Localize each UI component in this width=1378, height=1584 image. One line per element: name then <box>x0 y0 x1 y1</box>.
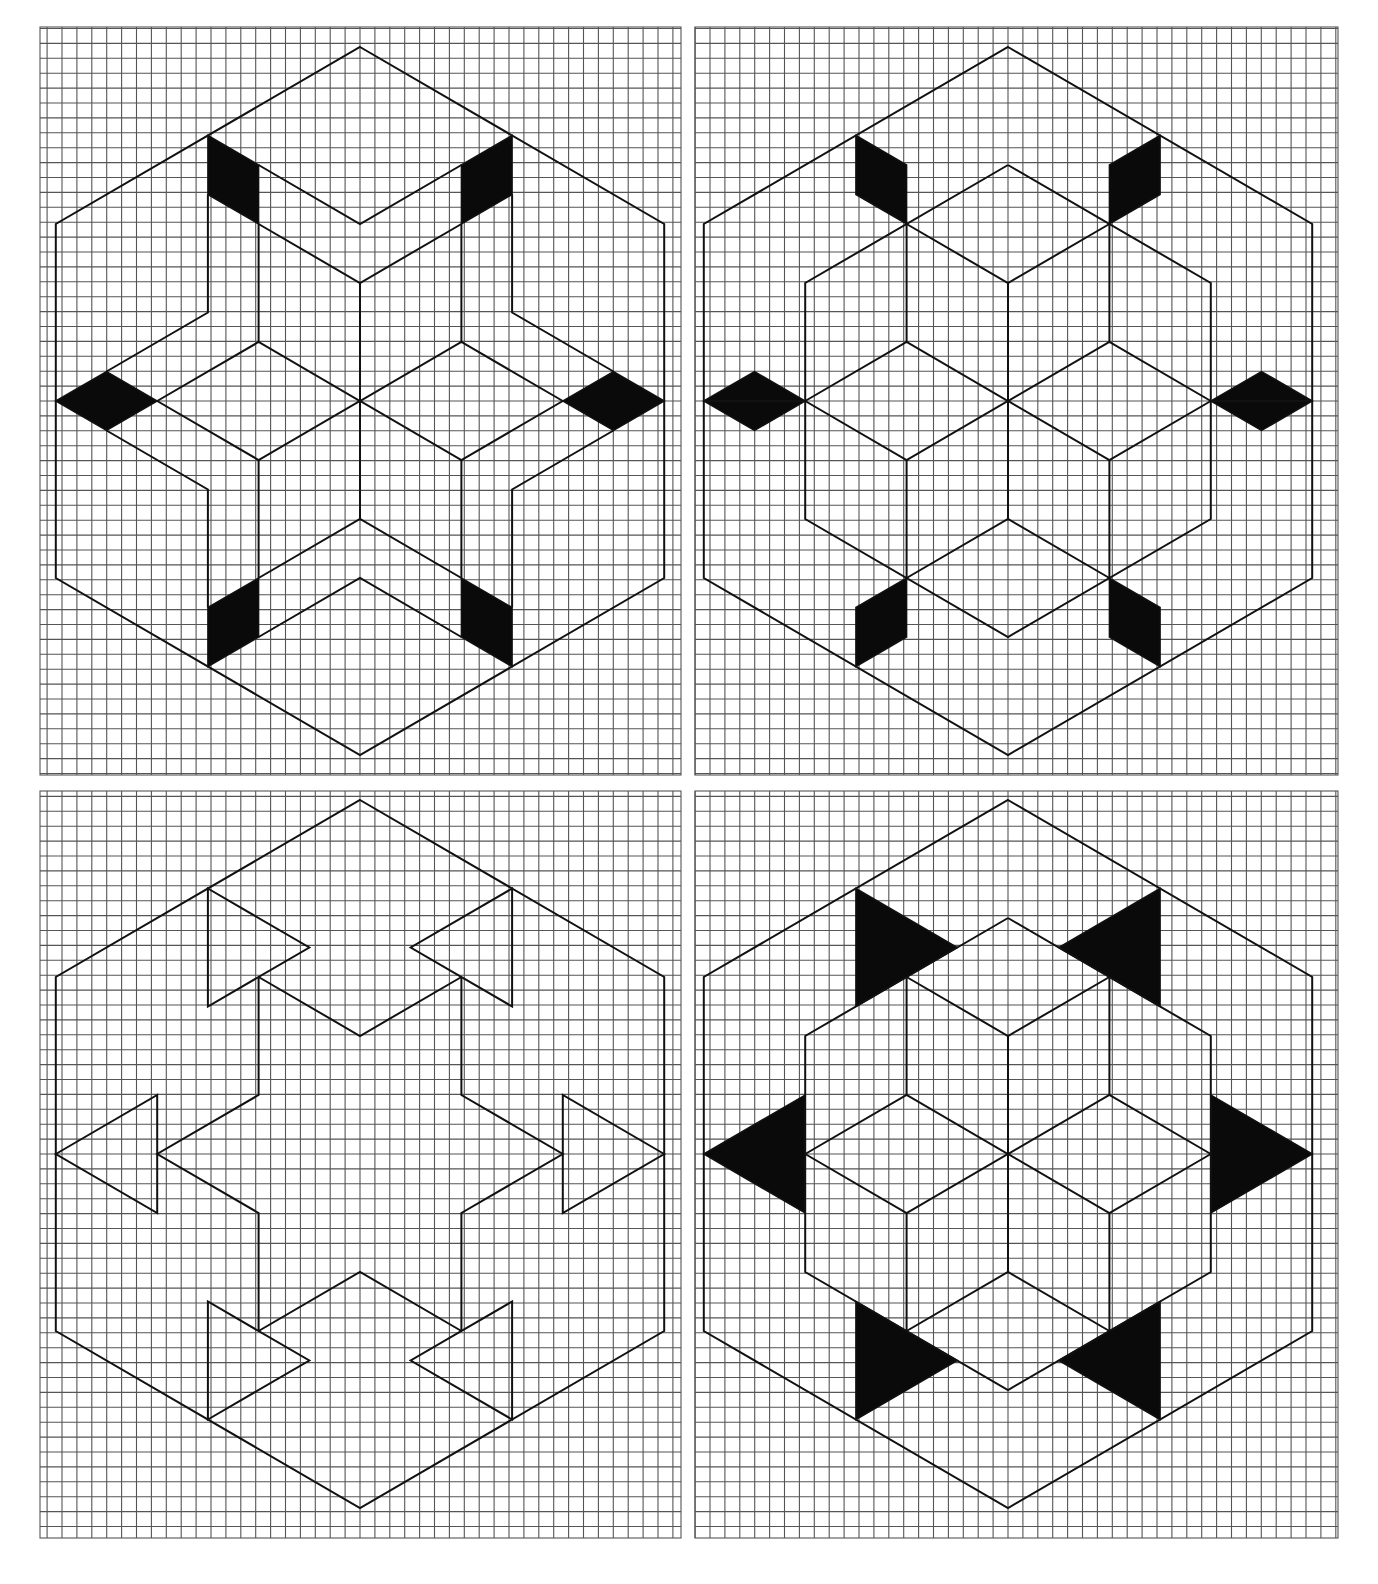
filled-shape <box>856 578 907 667</box>
filled-shape <box>856 136 907 225</box>
hexagon-panel-top-left <box>40 27 681 775</box>
filled-shape <box>461 136 512 225</box>
panels <box>40 27 1338 1538</box>
hexagon-panel-bottom-left <box>40 791 681 1538</box>
filled-shape <box>461 578 512 667</box>
filled-shape <box>1109 578 1160 667</box>
filled-shape <box>563 372 664 431</box>
filled-shape <box>56 372 157 431</box>
hexagon-panel-bottom-right <box>695 791 1338 1538</box>
filled-shape <box>1109 136 1160 225</box>
hexagon-panel-top-right <box>695 27 1338 775</box>
graph-paper-grid <box>40 791 681 1538</box>
filled-shape <box>208 578 259 667</box>
figure-canvas <box>0 0 1378 1584</box>
filled-shape <box>208 136 259 225</box>
